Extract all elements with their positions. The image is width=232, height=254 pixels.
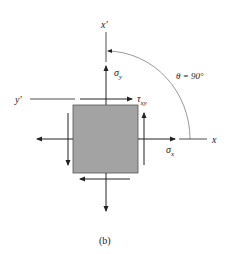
angle-label: θ = 90° (176, 71, 204, 81)
tau-xy-label: τxy (137, 93, 148, 107)
figure-caption: (b) (99, 235, 111, 247)
angle-label-text: θ = 90° (176, 71, 204, 81)
tau-xy-subscript: xy (140, 99, 148, 107)
stress-element-diagram: x′ σy θ = 90° y′ τxy x σx (b) (0, 0, 232, 254)
sigma-y-label: σy (114, 67, 123, 81)
sigma-y-subscript: y (118, 73, 123, 81)
sigma-x-subscript: x (170, 150, 175, 158)
x-label: x (211, 134, 217, 145)
sigma-x-label: σx (166, 144, 175, 158)
x-prime-label: x′ (100, 19, 108, 30)
stress-element (73, 105, 138, 173)
y-prime-label: y′ (14, 94, 22, 105)
